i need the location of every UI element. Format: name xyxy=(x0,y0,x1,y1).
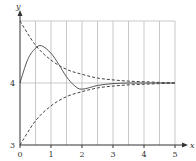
x-axis-label: x xyxy=(190,141,195,150)
tick-labels: 01234534 xyxy=(10,79,178,159)
y-tick-label: 4 xyxy=(10,79,15,88)
x-tick-label: 3 xyxy=(110,150,115,159)
y-tick-label: 3 xyxy=(10,141,15,150)
x-tick-label: 0 xyxy=(17,150,22,159)
x-axis-arrow-icon xyxy=(182,143,188,148)
axes: x y xyxy=(15,2,195,150)
y-axis-label: y xyxy=(15,2,21,11)
chart: x y 01234534 xyxy=(0,0,196,161)
x-tick-label: 4 xyxy=(141,150,146,159)
x-tick-label: 5 xyxy=(172,150,177,159)
x-tick-label: 1 xyxy=(48,150,53,159)
x-tick-label: 2 xyxy=(79,150,84,159)
